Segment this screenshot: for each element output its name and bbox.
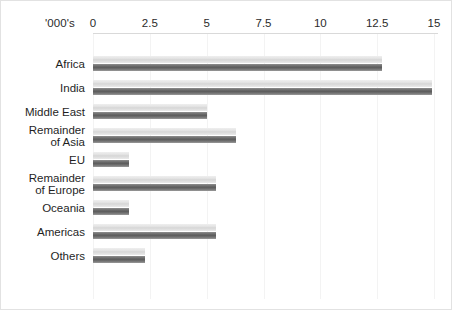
category-label: Others <box>0 250 85 262</box>
x-axis-tick-label: 5 <box>203 17 209 29</box>
bar-light <box>93 200 129 207</box>
x-axis-tick-label: 7.5 <box>256 17 272 29</box>
category-label: Middle East <box>0 106 85 118</box>
x-axis-tick-label: 10 <box>314 17 327 29</box>
bar-light <box>93 176 216 183</box>
bar-light <box>93 128 236 135</box>
x-axis-tick-label: 15 <box>428 17 441 29</box>
bar-dark <box>93 232 216 239</box>
category-group: India <box>1 76 452 100</box>
category-group: EU <box>1 148 452 172</box>
category-group: Africa <box>1 52 452 76</box>
x-axis: '000's 02.557.51012.515 <box>1 1 452 35</box>
bar-dark <box>93 88 432 95</box>
category-label: Oceania <box>0 202 85 214</box>
bar-light <box>93 152 129 159</box>
bar-dark <box>93 112 207 119</box>
category-label: EU <box>0 154 85 166</box>
bar-dark <box>93 256 145 263</box>
bar-dark <box>93 208 129 215</box>
axis-unit-label: '000's <box>45 17 75 29</box>
category-label: Remainder of Europe <box>0 172 85 196</box>
category-label: Africa <box>0 58 85 70</box>
category-group: Remainder of Asia <box>1 124 452 148</box>
bar-dark <box>93 184 216 191</box>
category-group: Middle East <box>1 100 452 124</box>
bar-light <box>93 248 145 255</box>
bar-dark <box>93 136 236 143</box>
category-group: Oceania <box>1 196 452 220</box>
bar-chart: '000's 02.557.51012.515 AfricaIndiaMiddl… <box>0 0 452 310</box>
bar-dark <box>93 160 129 167</box>
category-label: Remainder of Asia <box>0 124 85 148</box>
x-axis-tick-label: 12.5 <box>366 17 388 29</box>
bar-dark <box>93 64 382 71</box>
plot-area: AfricaIndiaMiddle EastRemainder of AsiaE… <box>1 35 452 310</box>
category-label: Americas <box>0 226 85 238</box>
category-label: India <box>0 82 85 94</box>
bar-light <box>93 56 382 63</box>
bar-light <box>93 104 207 111</box>
category-group: Others <box>1 244 452 268</box>
axis-rule <box>93 33 438 34</box>
bar-light <box>93 224 216 231</box>
category-group: Remainder of Europe <box>1 172 452 196</box>
bar-light <box>93 80 432 87</box>
x-axis-tick-label: 2.5 <box>142 17 158 29</box>
x-axis-tick-label: 0 <box>90 17 96 29</box>
category-group: Americas <box>1 220 452 244</box>
